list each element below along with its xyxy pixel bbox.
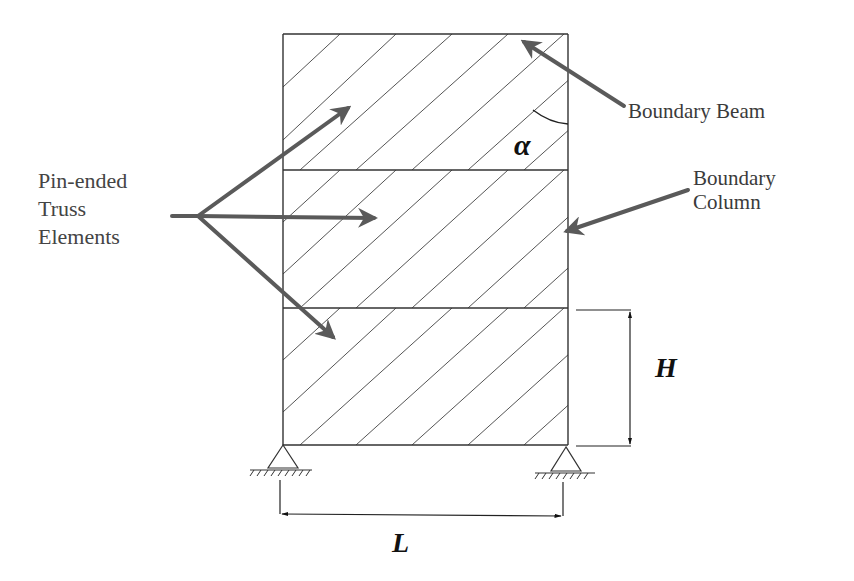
- truss-arrow-middle: [198, 216, 374, 218]
- height-dimension: [576, 310, 631, 446]
- boundary-beam-arrow: [524, 42, 624, 106]
- truss-elements-label: Pin-ended Truss Elements: [38, 167, 127, 251]
- braced-frame-diagram: [0, 0, 854, 581]
- boundary-column-label: Boundary Column: [693, 166, 776, 214]
- truss-arrow-lower: [198, 216, 333, 337]
- boundary-column-arrow: [567, 190, 688, 231]
- pin-support-left: [250, 445, 312, 476]
- truss-elements-label-line-1: Pin-ended: [38, 167, 127, 195]
- angle-alpha-symbol: α: [514, 130, 531, 160]
- boundary-column-label-line-2: Column: [693, 190, 776, 214]
- boundary-beam-label: Boundary Beam: [628, 98, 765, 124]
- truss-elements-story-2: [283, 170, 732, 308]
- truss-arrow-upper: [198, 108, 348, 216]
- pin-support-right: [535, 447, 595, 479]
- truss-elements-label-line-2: Truss: [38, 195, 127, 223]
- angle-arc: [533, 110, 568, 124]
- boundary-frame: [283, 34, 568, 445]
- truss-elements-label-line-3: Elements: [38, 223, 127, 251]
- length-dimension: [280, 480, 563, 516]
- height-symbol: H: [655, 353, 677, 383]
- length-symbol: L: [392, 528, 409, 558]
- boundary-column-label-line-1: Boundary: [693, 166, 776, 190]
